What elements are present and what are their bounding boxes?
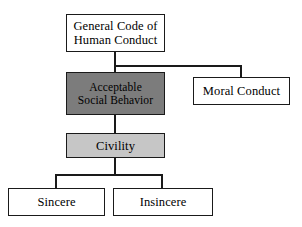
node-insincere[interactable]: Insincere (113, 188, 213, 216)
node-general-code-of-human-conduct[interactable]: General Code of Human Conduct (66, 14, 165, 52)
diagram-canvas: General Code of Human Conduct Acceptable… (0, 0, 302, 227)
node-label-acceptable-social-behavior: Acceptable Social Behavior (76, 81, 155, 107)
node-label-general-code-of-human-conduct: General Code of Human Conduct (71, 19, 159, 47)
node-civility[interactable]: Civility (66, 133, 165, 158)
edge-civility-to-insincere (161, 174, 163, 189)
edge-root-branch-bar (114, 65, 242, 67)
edge-acceptable-social-behavior-to-civility (114, 115, 116, 134)
node-label-moral-conduct: Moral Conduct (201, 84, 282, 98)
edge-civility-to-sincere (55, 174, 57, 189)
edge-civility-split-bar (55, 174, 163, 176)
node-label-insincere: Insincere (138, 195, 189, 209)
node-sincere[interactable]: Sincere (8, 188, 105, 216)
node-label-sincere: Sincere (35, 195, 77, 209)
node-acceptable-social-behavior[interactable]: Acceptable Social Behavior (66, 72, 165, 115)
node-moral-conduct[interactable]: Moral Conduct (193, 77, 290, 105)
node-label-civility: Civility (94, 139, 137, 153)
